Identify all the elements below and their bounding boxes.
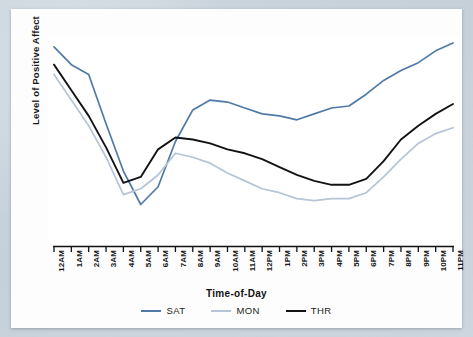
legend-item-mon[interactable]: MON xyxy=(211,305,259,316)
x-tick-label-12am: 12AM xyxy=(57,250,66,272)
series-layer xyxy=(54,43,453,205)
x-tick-label-4am: 4AM xyxy=(127,250,136,267)
x-tick-label-12pm: 12PM xyxy=(265,250,274,271)
y-axis-title: Level of Positive Affect xyxy=(30,0,41,151)
x-tick-label-3pm: 3PM xyxy=(317,250,326,267)
x-tick-label-8pm: 8PM xyxy=(404,250,413,267)
x-tick-label-7pm: 7PM xyxy=(387,250,396,267)
x-tick-label-5am: 5AM xyxy=(144,250,153,267)
x-axis-title: Time-of-Day xyxy=(0,288,473,299)
x-tick-label-11am: 11AM xyxy=(248,250,257,271)
x-tick-label-1pm: 1PM xyxy=(283,250,292,267)
series-line-sat xyxy=(54,43,453,205)
x-tick-label-8am: 8AM xyxy=(196,250,205,267)
legend-item-thr[interactable]: THR xyxy=(286,305,332,316)
x-tick-label-10am: 10AM xyxy=(231,250,240,272)
x-tick-label-1am: 1AM xyxy=(75,250,84,267)
x-tick-label-2am: 2AM xyxy=(92,250,101,267)
line-chart-svg xyxy=(48,37,459,244)
x-tick-label-5pm: 5PM xyxy=(352,250,361,267)
x-tick-label-9pm: 9PM xyxy=(422,250,431,267)
chart-legend: SATMONTHR xyxy=(0,305,473,316)
x-tick-label-6pm: 6PM xyxy=(369,250,378,267)
x-tick-label-4pm: 4PM xyxy=(335,250,344,267)
legend-swatch-thr xyxy=(286,310,306,312)
x-tick-label-10pm: 10PM xyxy=(439,250,448,271)
x-tick-label-3am: 3AM xyxy=(109,250,118,267)
x-tick-label-11pm: 11PM xyxy=(456,250,465,271)
legend-item-sat[interactable]: SAT xyxy=(141,305,185,316)
legend-label-mon: MON xyxy=(236,305,259,316)
x-tick-label-9am: 9AM xyxy=(213,250,222,267)
legend-label-sat: SAT xyxy=(166,305,185,316)
x-tick-label-7am: 7AM xyxy=(179,250,188,267)
legend-label-thr: THR xyxy=(311,305,332,316)
x-tick-label-2pm: 2PM xyxy=(300,250,309,267)
series-line-mon xyxy=(54,74,453,200)
x-tick-label-6am: 6AM xyxy=(161,250,170,267)
chart-card: Level of Positive Affect 12AM1AM2AM3AM4A… xyxy=(11,9,462,328)
legend-swatch-mon xyxy=(211,310,231,312)
plot-area xyxy=(48,37,459,244)
figure-background: Level of Positive Affect 12AM1AM2AM3AM4A… xyxy=(0,0,473,337)
legend-swatch-sat xyxy=(141,310,161,312)
